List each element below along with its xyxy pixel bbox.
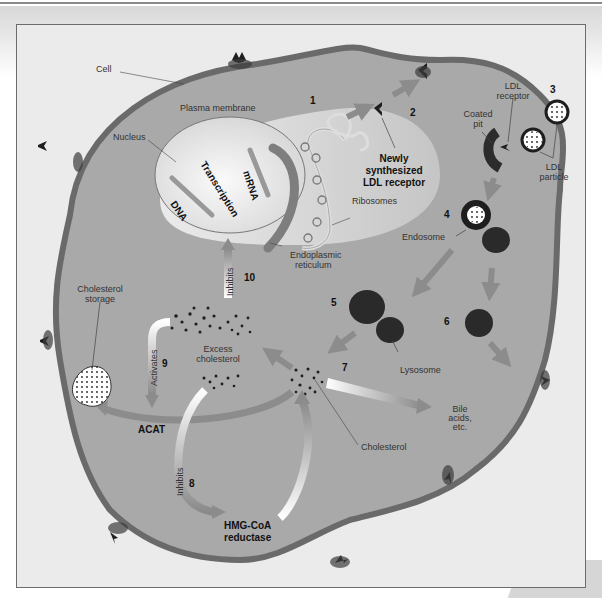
step-6: 6	[444, 316, 450, 327]
label-newly-3: LDL receptor	[363, 177, 425, 188]
step-10: 10	[244, 272, 256, 283]
label-activates-9: Activates	[149, 349, 159, 386]
step-7: 7	[342, 362, 348, 373]
label-endosome: Endosome	[402, 232, 445, 242]
step-3: 3	[550, 84, 556, 95]
label-inhibits-8: Inhibits	[175, 467, 185, 496]
label-storage-2: storage	[85, 294, 115, 304]
label-hmg-2: reductase	[224, 532, 272, 543]
label-plasma-membrane: Plasma membrane	[180, 103, 256, 113]
label-cell: Cell	[96, 64, 112, 74]
label-coated-pit-2: pit	[473, 119, 483, 129]
label-ldl-receptor-2: receptor	[496, 91, 529, 101]
label-ldl-receptor-1: LDL	[505, 81, 522, 91]
label-excess-2: cholesterol	[196, 354, 240, 364]
label-ldl-particle-2: particle	[539, 172, 568, 182]
label-bile-3: etc.	[453, 422, 468, 432]
label-storage-1: Cholesterol	[77, 284, 123, 294]
label-lysosome: Lysosome	[400, 365, 441, 375]
label-acat: ACAT	[138, 424, 165, 435]
label-newly-2: synthesized	[365, 165, 422, 176]
step-8: 8	[189, 478, 195, 489]
step-1: 1	[310, 95, 316, 106]
step-5: 5	[331, 297, 337, 308]
label-newly-1: Newly	[380, 153, 409, 164]
label-hmg-1: HMG-CoA	[224, 520, 271, 531]
label-er-1: Endoplasmic	[290, 250, 342, 260]
label-excess-1: Excess	[203, 344, 233, 354]
arrow-to-step-6	[490, 268, 492, 292]
label-ldl-particle-1: LDL	[546, 162, 563, 172]
arrow-to-endosome	[490, 178, 494, 192]
recycling-vesicle	[465, 309, 493, 337]
cell-diagram: Cell Plasma membrane Nucleus Transcripti…	[0, 0, 602, 598]
label-cholesterol: Cholesterol	[361, 442, 407, 452]
label-er-2: reticulum	[295, 260, 332, 270]
step-9: 9	[162, 358, 168, 369]
label-nucleus: Nucleus	[113, 132, 146, 142]
label-coated-pit-1: Coated	[463, 109, 492, 119]
step-2: 2	[410, 107, 416, 118]
receptor-icon	[38, 141, 47, 151]
step-4: 4	[444, 209, 450, 220]
label-inhibits-10: Inhibits	[225, 267, 235, 296]
label-ribosomes: Ribosomes	[352, 196, 398, 206]
